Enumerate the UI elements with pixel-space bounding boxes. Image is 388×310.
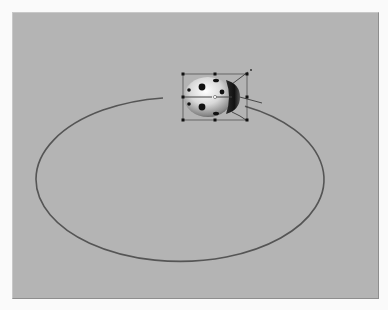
handle-middle-left[interactable] <box>182 96 185 99</box>
ladybug-icon[interactable] <box>184 72 262 120</box>
rotation-handle[interactable] <box>250 69 252 71</box>
motion-path[interactable] <box>36 98 324 261</box>
handle-bottom-center[interactable] <box>214 119 217 122</box>
stage-overlay <box>0 0 388 310</box>
handle-top-right[interactable] <box>246 73 249 76</box>
transform-center-point[interactable] <box>213 95 216 98</box>
handle-bottom-right[interactable] <box>246 119 249 122</box>
handle-top-left[interactable] <box>182 73 185 76</box>
document-page <box>0 0 388 310</box>
handle-bottom-left[interactable] <box>182 119 185 122</box>
handle-top-center[interactable] <box>214 73 217 76</box>
handle-middle-right[interactable] <box>246 96 249 99</box>
